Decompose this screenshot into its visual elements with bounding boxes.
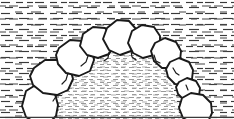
stone-arch-figure: Stone arch cross-section line drawing — [0, 0, 234, 119]
figure-canvas — [0, 0, 234, 119]
